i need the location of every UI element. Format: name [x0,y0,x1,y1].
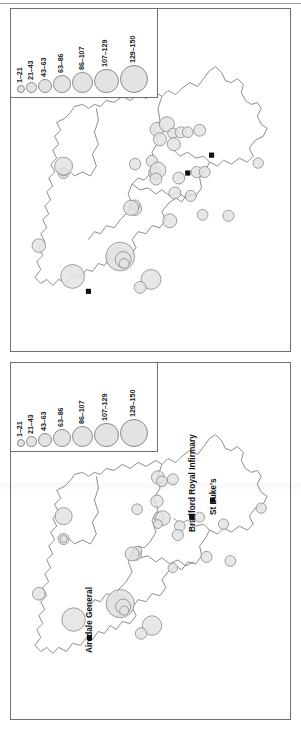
legend-bottom-circle-1 [26,436,37,447]
legend-top: 1–2121–4343–6363–8686–107107–129129–150 [10,8,158,98]
legend-bottom-class-1: 21–43 [26,402,37,447]
legend-bottom-label-5: 107–129 [100,393,109,420]
top-divider-rule [0,3,301,4]
legend-top-label-2: 43–63 [39,58,48,78]
map-panel-top: 1–2121–4343–6363–8686–107107–129129–150 [0,8,301,352]
legend-bottom-class-4: 86–107 [72,392,93,447]
hospital-label-st-lukes: St Luke's [208,478,218,515]
legend-top-circle-6 [120,65,148,93]
legend-top-circle-5 [94,69,118,93]
legend-bottom-class-6: 129–150 [120,385,148,447]
legend-bottom-circle-4 [72,426,93,447]
legend-top-label-3: 63–86 [56,54,65,74]
legend-bottom-label-1: 21–43 [26,415,35,435]
legend-top-circle-4 [72,72,93,93]
legend-top-class-4: 86–107 [72,38,93,93]
legend-bottom-class-0: 1–21 [17,405,25,447]
legend-top-circle-2 [38,79,52,93]
legend-bottom-circle-3 [53,429,71,447]
legend-top-label-6: 129–150 [128,36,137,63]
legend-top-class-6: 129–150 [120,31,148,93]
legend-top-class-3: 63–86 [53,41,71,93]
legend-bottom-circle-0 [17,439,25,447]
legend-top-class-5: 107–129 [94,35,118,93]
hospital-marker-st-lukes [209,153,214,158]
legend-bottom-class-5: 107–129 [94,389,118,447]
legend-bottom-label-0: 1–21 [15,421,24,437]
legend-bottom: 1–2121–4343–6363–8686–107107–129129–150 [10,362,158,452]
hospital-label-airedale-general: Airedale General [84,587,94,653]
hospital-label-bradford-royal-infirmary: Bradford Royal Infirmary [187,434,197,532]
legend-top-class-2: 43–63 [38,45,52,93]
legend-top-circle-1 [26,82,37,93]
legend-top-label-0: 1–21 [15,67,24,83]
legend-bottom-circle-5 [94,423,118,447]
legend-top-circle-3 [53,75,71,93]
legend-top-label-1: 21–43 [26,61,35,81]
legend-bottom-label-3: 63–86 [56,408,65,428]
legend-top-class-0: 1–21 [17,51,25,93]
legend-bottom-class-3: 63–86 [53,395,71,447]
legend-bottom-label-4: 86–107 [77,401,86,424]
legend-bottom-circle-2 [38,433,52,447]
hospital-marker-airedale-general [86,289,91,294]
legend-top-label-4: 86–107 [77,47,86,70]
legend-bottom-class-2: 43–63 [38,399,52,447]
legend-bottom-label-2: 43–63 [39,412,48,432]
legend-top-circle-0 [17,85,25,93]
legend-bottom-label-6: 129–150 [128,390,137,417]
legend-top-class-1: 21–43 [26,48,37,93]
legend-top-label-5: 107–129 [100,39,109,66]
legend-bottom-circle-6 [120,419,148,447]
map-panel-bottom: 1–2121–4343–6363–8686–107107–129129–150 … [0,362,301,720]
figure-root: 1–2121–4343–6363–8686–107107–129129–150 [0,0,301,729]
hospital-marker-bradford-royal-infirmary [185,170,190,175]
